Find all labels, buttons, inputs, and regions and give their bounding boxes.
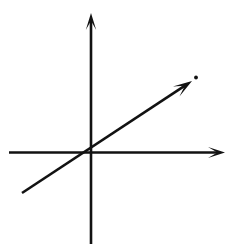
coordinate-axes-diagram	[0, 0, 235, 249]
figure-canvas: Cartesian coordinate axes with a diagona…	[0, 0, 235, 249]
ink-speck-mark	[194, 76, 198, 80]
background-rect	[0, 0, 235, 249]
